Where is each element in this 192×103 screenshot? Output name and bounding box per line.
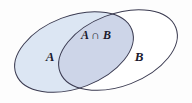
set-b-label: B [134, 49, 144, 64]
intersection-label: A ∩ B [80, 28, 111, 42]
venn-diagram-canvas: A ∩ B A B [0, 0, 192, 103]
venn-diagram-figure: A ∩ B A B [0, 0, 192, 103]
set-a-label: A [45, 49, 55, 64]
